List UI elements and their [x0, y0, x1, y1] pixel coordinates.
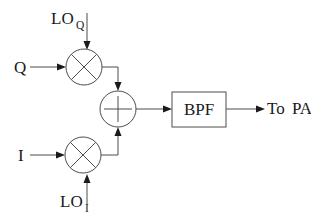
arrowhead [84, 174, 91, 183]
mixer-i-to-summer-arrow [101, 127, 122, 155]
summer-to-bpf-arrow [136, 106, 172, 113]
connector-line [101, 134, 118, 155]
lo-q-arrow [84, 13, 91, 50]
i-input-arrow [30, 152, 65, 159]
arrowhead [115, 82, 122, 91]
lo-i-label: LO [60, 192, 83, 211]
arrowhead [56, 152, 65, 159]
mixer-q-to-summer-arrow [102, 67, 122, 91]
bpf-output-arrow [226, 106, 265, 113]
diagram-canvas: Q LO Q I LO I [0, 0, 311, 224]
summer-plus-icon [104, 96, 132, 122]
connector-line [102, 67, 118, 84]
lo-q-label: LO [51, 9, 74, 28]
i-input-label: I [18, 146, 24, 165]
q-input-label: Q [14, 58, 26, 77]
arrowhead [163, 106, 172, 113]
bpf-label: BPF [184, 100, 214, 119]
mixer-i-x-icon [70, 142, 95, 167]
q-input-arrow [30, 64, 66, 71]
output-label: To PA [267, 99, 311, 118]
mixer-q-x-icon [71, 54, 96, 79]
arrowhead [57, 64, 66, 71]
arrowhead [256, 106, 265, 113]
lo-q-subscript: Q [76, 19, 85, 31]
lo-i-arrow [84, 174, 91, 205]
arrowhead [115, 127, 122, 136]
iq-modulator-diagram: Q LO Q I LO I [0, 0, 311, 224]
